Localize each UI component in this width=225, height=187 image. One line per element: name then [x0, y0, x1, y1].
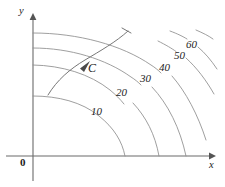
x-axis-label: x [209, 160, 214, 171]
level-label-20: 20 [116, 87, 127, 98]
level-curve-60c [196, 30, 213, 39]
origin-label: 0 [20, 157, 26, 168]
level-curve-50b [186, 58, 214, 94]
level-label-50: 50 [174, 50, 185, 61]
level-curve-60b [198, 47, 217, 69]
level-label-10: 10 [91, 106, 102, 117]
y-axis-label: y [19, 6, 24, 17]
level-curve-10 [33, 96, 125, 156]
y-axis-arrowhead [30, 13, 37, 20]
level-curve-20b [133, 103, 159, 156]
contour-plot-canvas [0, 0, 225, 187]
contour-plot-figure: y x 0 C 10 20 30 40 50 60 [0, 0, 225, 187]
level-label-40: 40 [159, 62, 170, 73]
level-curve-40b [172, 76, 206, 140]
level-label-60: 60 [186, 39, 197, 50]
path-c-label: C [88, 62, 96, 74]
level-curve-30b [152, 87, 186, 156]
axes-group [6, 13, 216, 181]
level-label-30: 30 [140, 73, 151, 84]
level-curve-60 [170, 31, 187, 39]
level-curve-20 [33, 65, 124, 104]
